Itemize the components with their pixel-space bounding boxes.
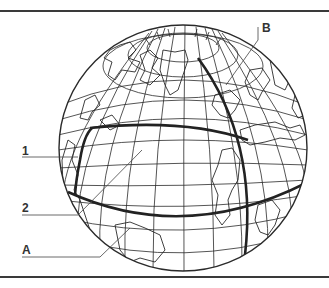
label-a: A <box>22 244 31 256</box>
leader-line-a <box>22 228 130 257</box>
label-2: 2 <box>22 202 29 214</box>
globe <box>22 25 308 271</box>
route-2-line <box>75 128 92 195</box>
parallel-1-line <box>90 125 248 140</box>
leader-line-b <box>226 27 258 85</box>
label-1: 1 <box>22 145 29 157</box>
leader-lines <box>22 27 258 257</box>
label-b: B <box>262 22 271 34</box>
globe-diagram <box>0 0 329 288</box>
